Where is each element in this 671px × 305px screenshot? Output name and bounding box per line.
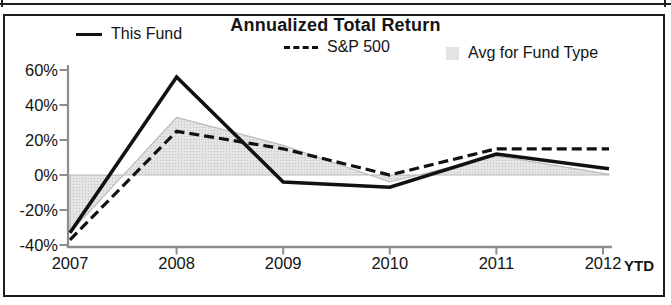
- avg-fund-type-area: [70, 117, 609, 233]
- scanned-page: Annualized Total Return This Fund S&P 50…: [0, 0, 671, 305]
- chart-plot: [0, 0, 671, 305]
